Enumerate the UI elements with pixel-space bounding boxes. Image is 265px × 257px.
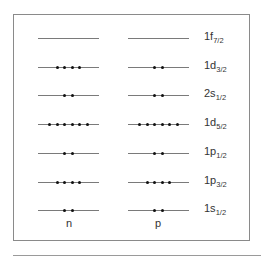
nucleon-dot: [176, 123, 179, 126]
level-line-n-1s-1-2: [38, 210, 99, 211]
level-line-n-1d-5-2: [38, 124, 99, 125]
level-line-n-1p-3-2: [38, 182, 99, 183]
column-label-p: p: [155, 218, 161, 229]
level-line-p-2s-1-2: [128, 95, 189, 96]
level-label: 1d5/2: [204, 117, 227, 128]
nucleon-dot: [71, 123, 74, 126]
nucleon-dot: [71, 94, 74, 97]
nucleon-dot: [86, 123, 89, 126]
nucleon-dot: [161, 94, 164, 97]
bottom-rule: [13, 255, 261, 256]
level-label: 1p1/2: [204, 146, 227, 157]
nucleon-dot: [146, 181, 149, 184]
nucleon-dot: [56, 66, 59, 69]
nucleon-dot: [48, 123, 51, 126]
level-line-p-1d-5-2: [128, 124, 189, 125]
level-line-p-1p-1-2: [128, 153, 189, 154]
level-line-n-1d-3-2: [38, 67, 99, 68]
nucleon-dot: [71, 66, 74, 69]
level-line-p-1f-7-2: [128, 38, 189, 39]
level-label: 1p3/2: [204, 175, 227, 186]
nucleon-dot: [71, 209, 74, 212]
nucleon-dot: [161, 152, 164, 155]
nucleon-dot: [161, 181, 164, 184]
nucleon-dot: [146, 123, 149, 126]
level-label: 1s1/2: [204, 203, 226, 214]
nucleon-dot: [71, 152, 74, 155]
nucleon-dot: [138, 123, 141, 126]
nucleon-dot: [161, 66, 164, 69]
nucleon-dot: [161, 123, 164, 126]
level-line-n-2s-1-2: [38, 95, 99, 96]
level-line-n-1f-7-2: [38, 38, 99, 39]
level-line-n-1p-1-2: [38, 153, 99, 154]
nucleon-dot: [56, 181, 59, 184]
nucleon-dot: [71, 181, 74, 184]
column-label-n: n: [66, 218, 72, 229]
nucleon-dot: [161, 209, 164, 212]
level-label: 1f7/2: [204, 31, 224, 42]
level-line-p-1p-3-2: [128, 182, 189, 183]
level-label: 2s1/2: [204, 88, 226, 99]
nucleon-dot: [56, 123, 59, 126]
level-line-p-1d-3-2: [128, 67, 189, 68]
level-line-p-1s-1-2: [128, 210, 189, 211]
level-label: 1d3/2: [204, 60, 227, 71]
